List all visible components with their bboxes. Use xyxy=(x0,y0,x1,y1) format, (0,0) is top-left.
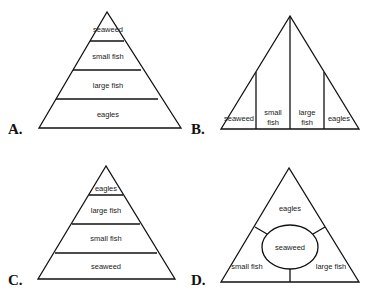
level-label: eagles xyxy=(95,184,117,193)
divider xyxy=(255,227,267,234)
option-d-letter: D. xyxy=(191,272,206,288)
divider xyxy=(313,227,325,234)
level-label: seaweed xyxy=(91,262,121,271)
level-label: small fish xyxy=(90,234,121,243)
level-label: large fish xyxy=(93,81,123,90)
food-chain-diagrams: A. seaweed small fish large fish eagles … xyxy=(0,0,373,298)
option-b: B. seaweed small fish large fish eagles xyxy=(191,16,359,137)
level-label: eagles xyxy=(97,110,119,119)
section-label: large xyxy=(299,108,316,117)
level-label: small fish xyxy=(92,52,123,61)
section-label: fish xyxy=(267,118,279,127)
region-label: large fish xyxy=(316,262,346,271)
option-d: D. eagles seaweed small fish large fish xyxy=(191,168,359,288)
option-a: A. seaweed small fish large fish eagles xyxy=(8,12,181,137)
section-label: eagles xyxy=(328,114,350,123)
level-label: seaweed xyxy=(93,25,123,34)
level-label: large fish xyxy=(91,206,121,215)
section-label: small xyxy=(264,108,282,117)
region-label: eagles xyxy=(279,204,301,213)
section-label: seaweed xyxy=(224,114,254,123)
option-a-letter: A. xyxy=(8,121,23,137)
option-c: C. eagles large fish small fish seaweed xyxy=(8,166,175,288)
option-b-letter: B. xyxy=(191,121,205,137)
center-label: seaweed xyxy=(275,243,305,252)
region-label: small fish xyxy=(231,262,262,271)
option-c-letter: C. xyxy=(8,272,23,288)
section-label: fish xyxy=(301,118,313,127)
